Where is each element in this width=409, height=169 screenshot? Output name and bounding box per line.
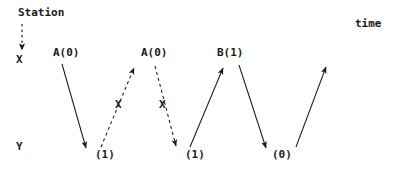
message-label-b-first: B(1) [217, 47, 244, 59]
message-arrow-m1 [62, 64, 86, 148]
lost-marker-icon-1: X [115, 99, 122, 111]
value-label-3: (0) [272, 149, 292, 161]
diagram-vector-layer [0, 0, 409, 169]
message-label-a-second: A(0) [141, 47, 168, 59]
value-label-1: (1) [95, 149, 115, 161]
time-axis-label: time [355, 18, 382, 30]
lost-marker-icon-2: X [159, 99, 166, 111]
station-label-y: Y [16, 141, 23, 153]
message-arrow-m4 [190, 68, 223, 147]
station-label-x: X [16, 54, 23, 66]
diagram-canvas: Station time X Y A(0) A(0) B(1) (1) (1) … [0, 0, 409, 169]
message-label-a-first: A(0) [53, 47, 80, 59]
message-arrow-m5 [239, 65, 266, 148]
station-caption: Station [18, 7, 64, 19]
message-arrow-m6 [296, 67, 326, 147]
value-label-2: (1) [185, 149, 205, 161]
